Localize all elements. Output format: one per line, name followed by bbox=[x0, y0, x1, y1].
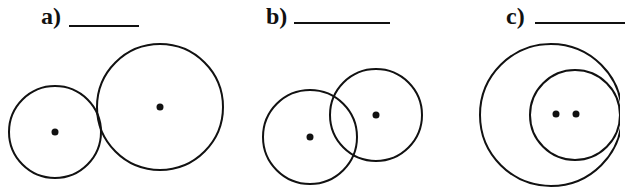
center-dot-b-left bbox=[307, 134, 314, 141]
center-dot-a-small bbox=[52, 129, 59, 136]
center-dot-c-outer bbox=[553, 111, 560, 118]
figure-b bbox=[263, 69, 422, 184]
circle-c-outer bbox=[480, 44, 620, 186]
figure-a bbox=[9, 44, 223, 178]
figure-c bbox=[480, 44, 620, 186]
center-dot-b-right bbox=[373, 112, 380, 119]
center-dot-a-large bbox=[157, 104, 164, 111]
center-dot-c-inner bbox=[573, 111, 580, 118]
